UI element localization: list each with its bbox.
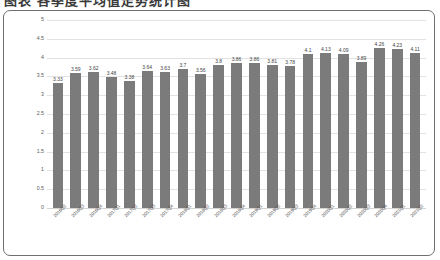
bar-column[interactable]: 3.86: [245, 20, 263, 208]
bar-column[interactable]: 3.64: [138, 20, 156, 208]
bar[interactable]: [142, 71, 153, 208]
bar-value-label: 3.78: [285, 60, 295, 65]
y-axis-tick-label: 1: [28, 168, 44, 173]
bar-column[interactable]: 3.48: [103, 20, 121, 208]
bar-column[interactable]: 4.09: [335, 20, 353, 208]
bar-column[interactable]: 3.38: [120, 20, 138, 208]
x-axis-label-cell: 2017Q4: [156, 207, 174, 249]
x-axis-label-cell: 2021Q2: [406, 207, 424, 249]
bar-value-label: 4.09: [339, 48, 349, 53]
x-axis-labels: 2016Q22016Q32016Q42017Q12017Q22017Q32017…: [47, 207, 426, 249]
x-axis-label-cell: 2016Q2: [49, 207, 67, 249]
bar[interactable]: [410, 53, 421, 208]
bar-value-label: 4.26: [375, 42, 385, 47]
bar-column[interactable]: 3.8: [210, 20, 228, 208]
bar[interactable]: [160, 72, 171, 208]
y-axis-tick-label: 1.5: [28, 149, 44, 154]
y-axis-tick-label: 0: [28, 205, 44, 210]
y-axis-tick-label: 3.5: [28, 74, 44, 79]
bar-column[interactable]: 4.1: [299, 20, 317, 208]
bar[interactable]: [374, 48, 385, 208]
bar-value-label: 3.7: [179, 63, 186, 68]
bar[interactable]: [320, 53, 331, 208]
x-axis-label-cell: 2019Q4: [299, 207, 317, 249]
x-axis-label-cell: 2017Q1: [103, 207, 121, 249]
bar-column[interactable]: 3.78: [281, 20, 299, 208]
x-axis-label-cell: 2018Q3: [210, 207, 228, 249]
bar[interactable]: [231, 63, 242, 208]
bar-column[interactable]: 3.63: [156, 20, 174, 208]
bar-value-label: 3.56: [196, 68, 206, 73]
chart-title-strip: 图表 各季度平均值走势统计图: [0, 0, 440, 9]
bar[interactable]: [213, 65, 224, 208]
y-axis-tick-label: 5: [28, 17, 44, 22]
bar-value-label: 3.38: [124, 75, 134, 80]
bar-column[interactable]: 4.23: [388, 20, 406, 208]
bar-column[interactable]: 3.7: [174, 20, 192, 208]
bar[interactable]: [285, 66, 296, 208]
x-axis-label-cell: 2019Q2: [263, 207, 281, 249]
y-axis-tick-label: 2.5: [28, 111, 44, 116]
bar-value-label: 3.89: [357, 56, 367, 61]
bar-value-label: 4.1: [304, 48, 311, 53]
bar[interactable]: [249, 63, 260, 208]
page-title: 图表 各季度平均值走势统计图: [4, 0, 191, 9]
bar-value-label: 4.13: [321, 47, 331, 52]
bar-column[interactable]: 3.33: [49, 20, 67, 208]
bar-column[interactable]: 3.81: [263, 20, 281, 208]
bar[interactable]: [338, 54, 349, 208]
bar-column[interactable]: 3.62: [85, 20, 103, 208]
x-axis-label-cell: 2020Q2: [335, 207, 353, 249]
x-axis-label-cell: 2016Q4: [85, 207, 103, 249]
y-axis-tick-label: 0.5: [28, 187, 44, 192]
bar-column[interactable]: 4.11: [406, 20, 424, 208]
x-axis-label-cell: 2018Q2: [192, 207, 210, 249]
y-axis-tick-label: 2: [28, 130, 44, 135]
bar-value-label: 3.63: [160, 66, 170, 71]
x-axis-label-cell: 2019Q1: [245, 207, 263, 249]
bar-value-label: 3.86: [250, 57, 260, 62]
y-axis-tick-label: 4: [28, 55, 44, 60]
bar-column[interactable]: 3.89: [353, 20, 371, 208]
bar-column[interactable]: 3.86: [228, 20, 246, 208]
x-axis-label-cell: 2018Q1: [174, 207, 192, 249]
plot-area: 00.511.522.533.544.55 3.333.593.623.483.…: [28, 20, 426, 208]
bar-column[interactable]: 4.13: [317, 20, 335, 208]
bar[interactable]: [303, 54, 314, 208]
bar[interactable]: [106, 77, 117, 208]
bar-value-label: 3.64: [142, 65, 152, 70]
x-axis-label-cell: 2020Q4: [370, 207, 388, 249]
chart-frame: 00.511.522.533.544.55 3.333.593.623.483.…: [3, 10, 435, 256]
bar-value-label: 3.48: [107, 71, 117, 76]
x-axis-label-cell: 2018Q4: [228, 207, 246, 249]
bar-series: 3.333.593.623.483.383.643.633.73.563.83.…: [47, 20, 426, 208]
bar-value-label: 3.62: [89, 66, 99, 71]
x-axis-label-cell: 2019Q3: [281, 207, 299, 249]
bar-value-label: 3.33: [53, 77, 63, 82]
bar[interactable]: [124, 81, 135, 208]
bar-value-label: 3.86: [232, 57, 242, 62]
bar[interactable]: [70, 73, 81, 208]
x-axis-label-cell: 2017Q2: [120, 207, 138, 249]
x-axis-label-cell: 2017Q3: [138, 207, 156, 249]
bar-value-label: 3.8: [215, 59, 222, 64]
bar-value-label: 3.81: [267, 59, 277, 64]
bar-column[interactable]: 4.26: [370, 20, 388, 208]
bar-value-label: 4.23: [392, 43, 402, 48]
bar[interactable]: [195, 74, 206, 208]
bar[interactable]: [88, 72, 99, 208]
x-axis-label-cell: 2020Q1: [317, 207, 335, 249]
x-axis-label-cell: 2021Q1: [388, 207, 406, 249]
y-axis-tick-label: 3: [28, 93, 44, 98]
bar[interactable]: [178, 69, 189, 208]
x-axis-label-cell: 2016Q3: [67, 207, 85, 249]
bar-column[interactable]: 3.59: [67, 20, 85, 208]
y-axis-tick-label: 4.5: [28, 36, 44, 41]
bar-value-label: 3.59: [71, 67, 81, 72]
x-axis-label-cell: 2020Q3: [353, 207, 371, 249]
bar[interactable]: [53, 83, 64, 208]
bar[interactable]: [392, 49, 403, 208]
bar-column[interactable]: 3.56: [192, 20, 210, 208]
bar[interactable]: [356, 62, 367, 208]
bar[interactable]: [267, 65, 278, 208]
